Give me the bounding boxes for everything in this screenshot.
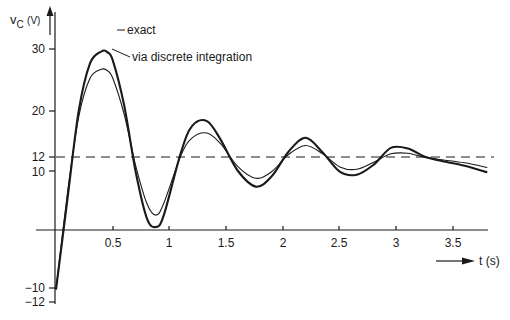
y-axis-label-subscript: C [17,19,24,30]
y-axis-label-main: v [10,12,17,27]
x-tick-1: 1 [154,237,184,249]
x-axis [36,226,488,230]
x-tick-1.5: 1.5 [211,237,241,249]
legend-label-discrete: via discrete integration [132,51,252,63]
y-axis-label: vC (V) [10,14,40,27]
y-axis-label-unit: (V) [27,15,40,26]
y-tick-20: 20 [15,105,45,117]
y-axis [49,12,55,304]
series-exact [56,50,487,289]
y-tick-neg12: −12 [15,296,45,308]
series-discrete-integration [56,69,487,290]
legend-leader-discrete [112,49,130,57]
x-tick-3.5: 3.5 [438,237,468,249]
x-tick-2.5: 2.5 [324,237,354,249]
y-tick-10: 10 [15,166,45,178]
y-tick-30: 30 [15,43,45,55]
y-axis-arrow-icon [47,6,54,35]
x-axis-label: t (s) [479,255,500,267]
x-tick-0.5: 0.5 [98,237,128,249]
x-tick-2: 2 [268,237,298,249]
y-tick-neg10: −10 [15,282,45,294]
chart-plot [0,0,510,320]
x-axis-arrow-icon [436,258,475,265]
y-tick-12: 12 [15,151,45,163]
legend-label-exact: exact [127,24,156,36]
x-tick-3: 3 [381,237,411,249]
